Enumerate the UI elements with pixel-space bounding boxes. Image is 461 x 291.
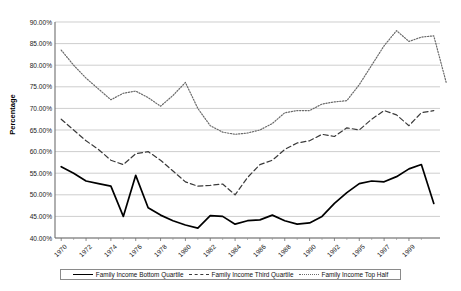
x-tick-label: 1980 [172,243,193,264]
legend-item: Family Income Third Quartile [189,271,294,278]
x-tick-label: 1992 [321,243,342,264]
x-tick-label: 1974 [97,243,118,264]
x-tick-label: 1988 [271,243,292,264]
chart-legend: Family Income Bottom QuartileFamily Inco… [60,269,401,280]
legend-swatch-dotted-icon [299,272,319,277]
x-tick-label: 1997 [371,243,392,264]
x-axis-tick-labels: 1970197219741976197819801982198419861988… [0,0,461,291]
x-tick-label: 1972 [72,243,93,264]
legend-swatch-dashed-icon [189,272,209,277]
legend-label: Family Income Top Half [322,271,389,278]
x-tick-label: 1982 [197,243,218,264]
x-tick-label: 1986 [246,243,267,264]
legend-swatch-solid-icon [73,272,93,277]
x-tick-label: 1995 [346,243,367,264]
line-chart: Percentage 90.00%85.00%80.00%75.00%70.00… [0,0,461,291]
x-tick-label: 1990 [296,243,317,264]
x-tick-label: 1978 [147,243,168,264]
x-tick-label: 1984 [222,243,243,264]
legend-label: Family Income Third Quartile [212,271,294,278]
legend-item: Family Income Top Half [299,271,389,278]
x-tick-label: 1999 [395,243,416,264]
legend-item: Family Income Bottom Quartile [73,271,184,278]
legend-label: Family Income Bottom Quartile [96,271,184,278]
x-tick-label: 1970 [48,243,69,264]
x-tick-label: 1976 [122,243,143,264]
